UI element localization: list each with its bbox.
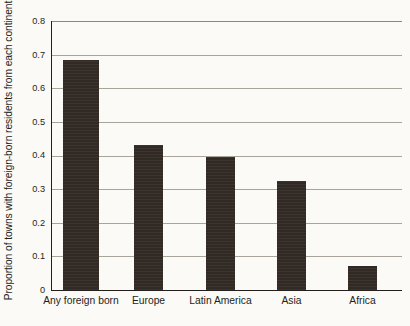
y-axis-title: Proportion of towns with foreign-born re… [0,0,18,300]
x-axis-category-labels: Any foreign born Europe Latin America As… [51,293,402,315]
x-label-europe: Europe [132,295,165,306]
bar-asia[interactable] [277,181,306,290]
bar-latin-america[interactable] [206,157,235,290]
y-tick-label-3: 0.5 [32,117,45,127]
bar-africa[interactable] [348,266,377,290]
x-label-any-foreign-born: Any foreign born [43,295,119,306]
y-tick-label-1: 0.7 [32,50,45,60]
y-tick-label-4: 0.4 [32,150,45,160]
x-label-latin-america: Latin America [189,295,251,306]
x-label-asia: Asia [281,295,301,306]
bar-europe[interactable] [134,145,163,290]
y-tick-label-8: 0 [40,285,45,295]
y-tick-label-6: 0.2 [32,218,45,228]
y-tick-label-2: 0.6 [32,83,45,93]
x-label-africa: Africa [349,295,375,306]
bars-layer [51,21,402,290]
y-axis-title-text: Proportion of towns with foreign-born re… [4,0,15,300]
y-tick-label-7: 0.1 [32,251,45,261]
bar-any-foreign-born[interactable] [63,60,99,290]
bar-chart-figure: Proportion of towns with foreign-born re… [0,0,410,326]
y-tick-label-5: 0.3 [32,184,45,194]
x-axis-line [51,290,402,291]
y-axis-tick-labels: 0.8 0.7 0.6 0.5 0.4 0.3 0.2 0.1 0 [18,0,48,326]
y-tick-label-0: 0.8 [32,16,45,26]
